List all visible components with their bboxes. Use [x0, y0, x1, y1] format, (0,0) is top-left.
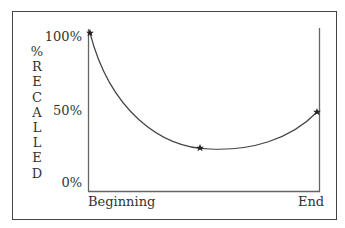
star-marker-middle [196, 144, 204, 151]
recall-curve [90, 33, 317, 149]
plot-area [0, 0, 345, 228]
